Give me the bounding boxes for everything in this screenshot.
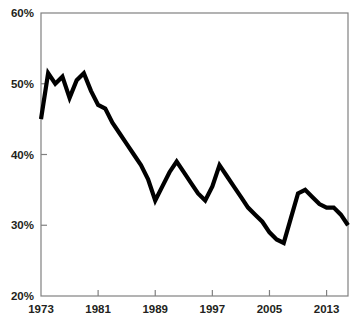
y-tick-label: 60% bbox=[11, 7, 34, 19]
chart-canvas: 60%50%40%30%20% 197319811989199720052013 bbox=[0, 0, 360, 329]
x-tick-label: 1989 bbox=[142, 303, 168, 315]
y-tick-label: 50% bbox=[11, 78, 34, 90]
x-tick-label: 2013 bbox=[314, 303, 340, 315]
x-tick-label: 1981 bbox=[85, 303, 111, 315]
x-tick-label: 1997 bbox=[200, 303, 226, 315]
y-tick-label: 20% bbox=[11, 290, 34, 302]
x-tick-label: 2005 bbox=[257, 303, 283, 315]
line-chart: 60%50%40%30%20% 197319811989199720052013 bbox=[0, 0, 360, 329]
y-tick-label: 40% bbox=[11, 149, 34, 161]
y-tick-label: 30% bbox=[11, 219, 34, 231]
x-tick-label: 1973 bbox=[28, 303, 54, 315]
